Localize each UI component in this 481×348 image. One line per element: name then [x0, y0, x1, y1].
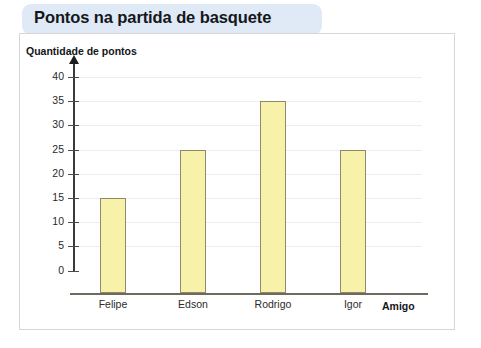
- page-title: Pontos na partida de basquete: [34, 8, 271, 27]
- x-axis-title: Amigo: [382, 300, 415, 312]
- y-axis-title: Quantidade de pontos: [26, 45, 137, 57]
- chart-frame: [19, 33, 455, 330]
